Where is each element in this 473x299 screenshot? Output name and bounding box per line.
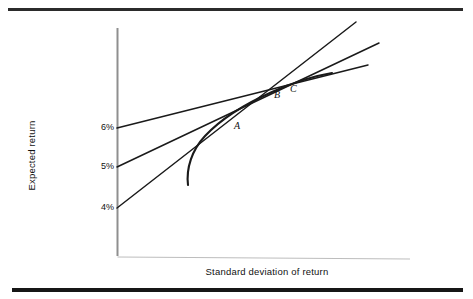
y-tick-label-4: 4% xyxy=(88,202,114,212)
point-label-b: B xyxy=(274,89,280,100)
x-axis-line xyxy=(118,257,411,259)
y-tick-label-6: 6% xyxy=(88,122,114,132)
y-tick-label-5: 5% xyxy=(88,161,114,171)
x-axis-title: Standard deviation of return xyxy=(117,266,417,277)
capital-line-flat xyxy=(117,65,368,128)
capital-line-steep xyxy=(117,22,356,208)
plot-area xyxy=(0,0,473,299)
point-label-c: C xyxy=(290,83,297,94)
point-label-a: A xyxy=(234,120,240,131)
y-axis-title: Expected return xyxy=(26,96,37,216)
efficient-frontier-curve xyxy=(188,73,332,185)
figure-container: Expected return Standard deviation of re… xyxy=(0,0,473,299)
